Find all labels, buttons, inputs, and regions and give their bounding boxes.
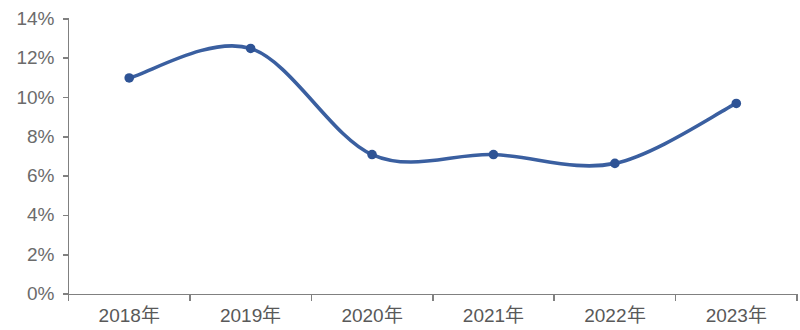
y-axis-tick-label: 2% [27,244,55,265]
data-point-marker [489,150,499,160]
x-axis-tick-labels: 2018年2019年2020年2021年2022年2023年 [99,305,767,326]
data-point-marker [124,73,134,83]
x-axis-tick-label: 2020年 [341,305,402,326]
data-point-marker [246,44,256,54]
y-axis-tick-label: 6% [27,165,55,186]
line-chart: 0%2%4%6%8%10%12%14% 2018年2019年2020年2021年… [0,0,800,330]
y-axis-tick-label: 12% [16,47,54,68]
x-axis-tick-label: 2022年 [584,305,645,326]
data-point-marker [731,99,741,109]
x-axis-tick-label: 2018年 [99,305,160,326]
chart-canvas: 0%2%4%6%8%10%12%14% 2018年2019年2020年2021年… [0,0,800,330]
x-axis-tick-label: 2019年 [220,305,281,326]
x-axis-tick-label: 2023年 [706,305,767,326]
y-axis-group: 0%2%4%6%8%10%12%14% [16,8,68,304]
x-axis-group: 2018年2019年2020年2021年2022年2023年 [69,294,798,326]
y-axis-tick-label: 10% [16,87,54,108]
data-point-marker [610,159,620,169]
y-axis-tick-label: 14% [16,8,54,29]
x-axis-tick-label: 2021年 [463,305,524,326]
data-point-marker [367,150,377,160]
series-markers [124,44,741,169]
y-axis-tick-labels: 0%2%4%6%8%10%12%14% [16,8,54,304]
plot-area [124,44,741,169]
y-axis-tick-label: 8% [27,126,55,147]
y-axis-tick-label: 0% [27,283,55,304]
y-axis-ticks [63,19,69,294]
series-line-path [129,46,736,166]
y-axis-tick-label: 4% [27,204,55,225]
